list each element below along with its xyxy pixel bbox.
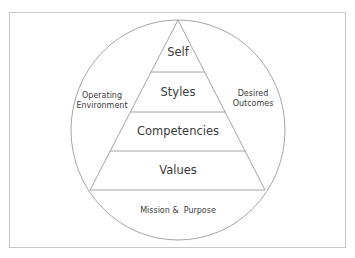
region-right-line1: Desired [233,89,274,99]
region-right-line2: Outcomes [233,99,274,109]
region-left-line1: Operating [76,91,127,101]
region-label-desired-outcomes: Desired Outcomes [233,89,274,109]
layer-label-competencies: Competencies [137,124,219,138]
diagram-canvas: Self Styles Competencies Values Operatin… [0,0,355,258]
region-left-line2: Environment [76,101,127,111]
region-label-operating-environment: Operating Environment [76,91,127,111]
layer-label-self: Self [167,45,189,59]
layer-label-styles: Styles [161,85,196,99]
region-label-mission-purpose: Mission & Purpose [140,206,216,216]
layer-label-values: Values [159,163,197,177]
